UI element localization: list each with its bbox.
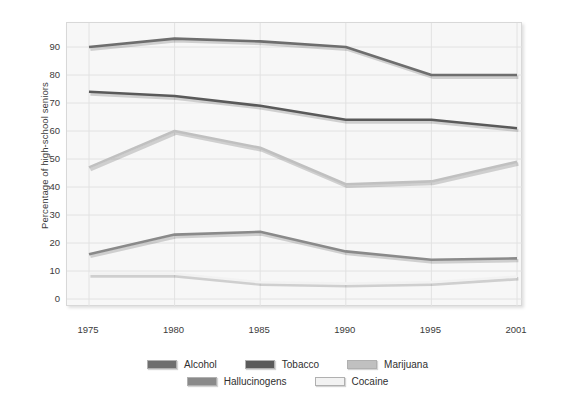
y-tick-label: 50: [34, 153, 60, 164]
legend-swatch-marijuana: [347, 360, 377, 369]
legend-item-alcohol[interactable]: Alcohol: [147, 359, 217, 370]
y-tick-label: 90: [34, 41, 60, 52]
chart-legend: AlcoholTobaccoMarijuanaHallucinogensCoca…: [0, 356, 575, 390]
legend-swatch-alcohol: [147, 360, 177, 369]
x-tick-label: 1980: [163, 324, 184, 335]
series-line-hallucinogens[interactable]: [89, 232, 517, 260]
legend-row: AlcoholTobaccoMarijuana: [0, 356, 575, 373]
y-tick-label: 70: [34, 97, 60, 108]
series-line-shadow: [90, 41, 518, 77]
x-axis-tick-labels: 197519801985199019952001: [0, 324, 575, 340]
y-tick-label: 40: [34, 181, 60, 192]
y-tick-label: 0: [34, 293, 60, 304]
series-line-marijuana[interactable]: [89, 131, 517, 184]
legend-swatch-tobacco: [245, 360, 275, 369]
y-tick-label: 60: [34, 125, 60, 136]
legend-label: Hallucinogens: [224, 376, 287, 387]
legend-label: Tobacco: [282, 359, 319, 370]
x-tick-label: 1975: [77, 324, 98, 335]
x-tick-label: 1990: [334, 324, 355, 335]
legend-item-hallucinogens[interactable]: Hallucinogens: [187, 376, 287, 387]
x-tick-label: 2001: [505, 324, 526, 335]
y-tick-label: 30: [34, 209, 60, 220]
series-lines: [67, 23, 523, 307]
legend-label: Marijuana: [384, 359, 428, 370]
legend-swatch-cocaine: [315, 377, 345, 386]
y-tick-label: 20: [34, 237, 60, 248]
x-tick-label: 1995: [420, 324, 441, 335]
chart-figure: Percentage of high-school seniors 010203…: [0, 0, 575, 401]
y-tick-label: 80: [34, 69, 60, 80]
legend-item-cocaine[interactable]: Cocaine: [315, 376, 389, 387]
plot-area: [66, 22, 522, 306]
legend-item-marijuana[interactable]: Marijuana: [347, 359, 428, 370]
y-tick-label: 10: [34, 265, 60, 276]
legend-row: HallucinogensCocaine: [0, 373, 575, 390]
legend-label: Cocaine: [352, 376, 389, 387]
y-axis-tick-labels: 0102030405060708090: [30, 22, 60, 306]
legend-swatch-hallucinogens: [187, 377, 217, 386]
x-tick-label: 1985: [249, 324, 270, 335]
series-line-shadow: [90, 133, 518, 186]
legend-label: Alcohol: [184, 359, 217, 370]
legend-item-tobacco[interactable]: Tobacco: [245, 359, 319, 370]
